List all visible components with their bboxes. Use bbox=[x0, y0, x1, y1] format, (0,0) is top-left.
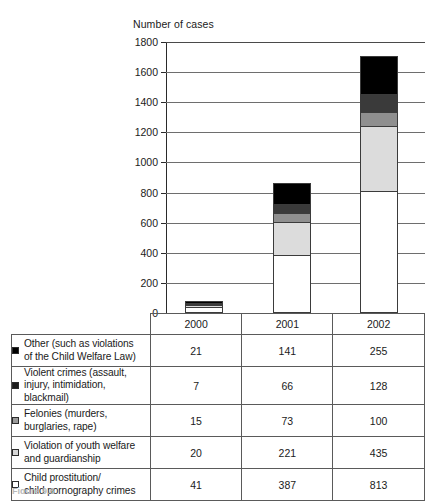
y-tick-800 bbox=[161, 193, 166, 194]
column-header-2000: 2000 bbox=[150, 314, 242, 335]
legend-label-cell: Violent crimes (assault,injury, intimida… bbox=[12, 367, 151, 405]
table-row: Child prostitution/child pornography cri… bbox=[12, 469, 425, 501]
legend-label-line1: Violent crimes (assault, bbox=[24, 367, 127, 378]
bar-segment bbox=[360, 112, 398, 127]
bar-segment bbox=[273, 183, 311, 204]
y-tick-label-200: 200 bbox=[140, 277, 158, 289]
y-tick-1600 bbox=[161, 72, 166, 73]
legend-entry: Other (such as violationsof the Child We… bbox=[12, 338, 150, 363]
value-cell-2000: 15 bbox=[150, 405, 242, 437]
y-tick-label-400: 400 bbox=[140, 247, 158, 259]
table-row: Other (such as violationsof the Child We… bbox=[12, 335, 425, 367]
table-row: Violent crimes (assault,injury, intimida… bbox=[12, 367, 425, 405]
column-header-2001: 2001 bbox=[242, 314, 333, 335]
legend-label-line2: of the Child Welfare Law) bbox=[24, 351, 136, 362]
chart-figure: Number of cases 020040060080010001200140… bbox=[0, 0, 448, 320]
value-cell-2002: 100 bbox=[333, 405, 425, 437]
legend-label-cell: Violation of youth welfareand guardiansh… bbox=[12, 437, 151, 469]
legend-label-cell: Felonies (murders,burglaries, rape) bbox=[12, 405, 151, 437]
y-tick-400 bbox=[161, 253, 166, 254]
y-axis-title: Number of cases bbox=[133, 18, 214, 30]
value-cell-2001: 66 bbox=[242, 367, 333, 405]
legend-label-cell: Child prostitution/child pornography cri… bbox=[12, 469, 151, 501]
table-row: Felonies (murders,burglaries, rape)15731… bbox=[12, 405, 425, 437]
legend-entry: Violent crimes (assault,injury, intimida… bbox=[12, 367, 150, 404]
legend-label-text: Other (such as violationsof the Child We… bbox=[24, 338, 136, 363]
y-tick-1800 bbox=[161, 42, 166, 43]
value-cell-2002: 435 bbox=[333, 437, 425, 469]
value-cell-2000: 21 bbox=[150, 335, 242, 367]
y-tick-label-1600: 1600 bbox=[135, 66, 158, 78]
value-cell-2000: 41 bbox=[150, 469, 242, 501]
value-cell-2002: 255 bbox=[333, 335, 425, 367]
figure-caption: Figure 9.6 bbox=[12, 486, 55, 494]
y-tick-label-1000: 1000 bbox=[135, 156, 158, 168]
legend-label-line1: Violation of youth welfare bbox=[24, 440, 135, 451]
legend-label-cell: Other (such as violationsof the Child We… bbox=[12, 335, 151, 367]
value-cell-2001: 221 bbox=[242, 437, 333, 469]
y-tick-1000 bbox=[161, 162, 166, 163]
legend-label-text: Violent crimes (assault,injury, intimida… bbox=[24, 367, 150, 404]
bar-segment bbox=[273, 255, 311, 313]
value-cell-2000: 20 bbox=[150, 437, 242, 469]
legend-label-line2: burglaries, rape) bbox=[24, 421, 96, 432]
y-tick-600 bbox=[161, 223, 166, 224]
legend-entry: Violation of youth welfareand guardiansh… bbox=[12, 440, 150, 465]
value-cell-2001: 387 bbox=[242, 469, 333, 501]
y-tick-label-800: 800 bbox=[140, 187, 158, 199]
value-cell-2002: 813 bbox=[333, 469, 425, 501]
y-tick-label-1400: 1400 bbox=[135, 96, 158, 108]
table-row: Violation of youth welfareand guardiansh… bbox=[12, 437, 425, 469]
legend-swatch-icon bbox=[12, 449, 19, 456]
bar-segment bbox=[360, 191, 398, 313]
legend-swatch-icon bbox=[12, 347, 19, 354]
value-cell-2001: 141 bbox=[242, 335, 333, 367]
value-cell-2000: 7 bbox=[150, 367, 242, 405]
gridline-1800 bbox=[166, 42, 425, 43]
bar-2000 bbox=[185, 301, 223, 313]
legend-label-text: Felonies (murders,burglaries, rape) bbox=[24, 408, 107, 433]
legend-label-line1: Other (such as violations bbox=[24, 338, 134, 349]
y-tick-1400 bbox=[161, 102, 166, 103]
legend-label-line2: and guardianship bbox=[24, 453, 101, 464]
table-corner-cell bbox=[12, 314, 151, 335]
y-tick-label-1200: 1200 bbox=[135, 126, 158, 138]
y-tick-label-1800: 1800 bbox=[135, 36, 158, 48]
legend-label-text: Violation of youth welfareand guardiansh… bbox=[24, 440, 135, 465]
y-tick-200 bbox=[161, 283, 166, 284]
bar-segment bbox=[360, 126, 398, 191]
value-cell-2001: 73 bbox=[242, 405, 333, 437]
plot-area: 020040060080010001200140016001800 bbox=[166, 42, 425, 313]
legend-label-line1: Child prostitution/ bbox=[24, 472, 101, 483]
legend-label-line2: injury, intimidation, blackmail) bbox=[24, 379, 106, 402]
legend-data-table: 2000 2001 2002 Other (such as violations… bbox=[11, 313, 425, 501]
value-cell-2002: 128 bbox=[333, 367, 425, 405]
legend-label-line1: Felonies (murders, bbox=[24, 408, 107, 419]
legend-entry: Felonies (murders,burglaries, rape) bbox=[12, 408, 150, 433]
legend-swatch-icon bbox=[12, 382, 19, 389]
table-header-row: 2000 2001 2002 bbox=[12, 314, 425, 335]
legend-swatch-icon bbox=[12, 417, 19, 424]
y-axis-line bbox=[166, 42, 167, 313]
bar-segment bbox=[360, 56, 398, 94]
bar-segment bbox=[273, 222, 311, 255]
y-tick-1200 bbox=[161, 132, 166, 133]
y-tick-label-600: 600 bbox=[140, 217, 158, 229]
table-body: Other (such as violationsof the Child We… bbox=[12, 335, 425, 501]
column-header-2002: 2002 bbox=[333, 314, 425, 335]
bar-segment bbox=[360, 94, 398, 113]
bar-2001 bbox=[273, 183, 311, 313]
bar-2002 bbox=[360, 56, 398, 313]
